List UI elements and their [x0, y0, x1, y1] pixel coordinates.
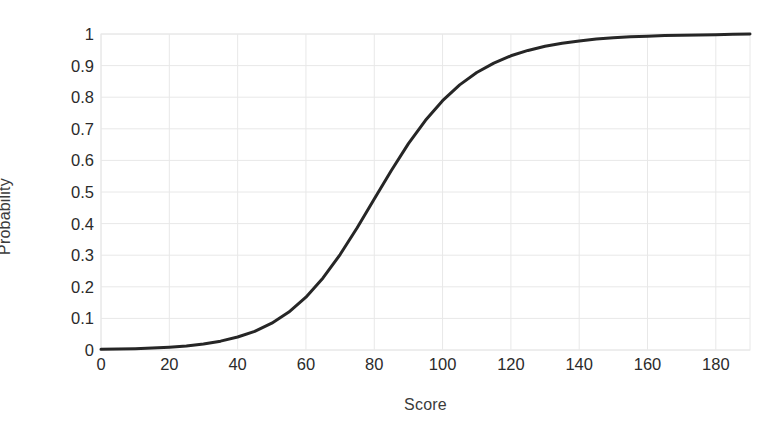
- x-tick-label: 20: [160, 355, 178, 374]
- x-tick-label: 160: [634, 355, 662, 374]
- x-axis-title: Score: [101, 396, 750, 414]
- probability-score-chart: Probability 00.10.20.30.40.50.60.70.80.9…: [0, 0, 783, 433]
- x-tick-label: 0: [96, 355, 105, 374]
- gridlines: [101, 34, 750, 350]
- x-tick-label: 140: [565, 355, 593, 374]
- plot-area: [0, 0, 783, 433]
- x-tick-label: 60: [297, 355, 315, 374]
- x-tick-label: 120: [497, 355, 525, 374]
- x-tick-label: 40: [228, 355, 246, 374]
- x-tick-label: 180: [702, 355, 730, 374]
- x-tick-label: 100: [429, 355, 457, 374]
- x-tick-label: 80: [365, 355, 383, 374]
